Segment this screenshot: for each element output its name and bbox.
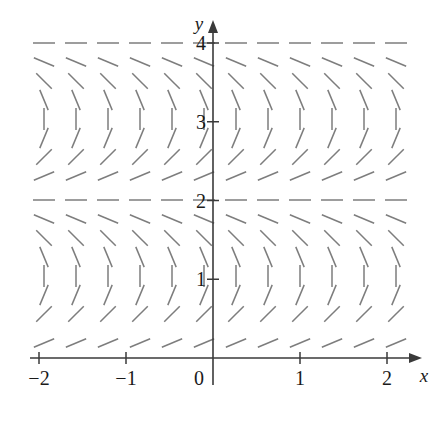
- y-tick-label: 2: [196, 190, 206, 212]
- slope-segment: [104, 247, 112, 267]
- slope-segment: [290, 215, 310, 223]
- slope-segment: [34, 339, 54, 347]
- slope-segment: [68, 149, 84, 165]
- slope-segment: [226, 172, 246, 180]
- slope-segment: [36, 149, 52, 165]
- slope-segment: [322, 58, 342, 66]
- slope-segment: [260, 230, 276, 246]
- slope-segment: [388, 306, 404, 322]
- slope-segment: [354, 215, 374, 223]
- slope-segment: [40, 90, 48, 110]
- slope-segment: [232, 90, 240, 110]
- slope-segment: [136, 285, 144, 305]
- slope-segment: [34, 172, 54, 180]
- slope-segment: [168, 285, 176, 305]
- slope-segment: [72, 247, 80, 267]
- slope-segment: [264, 128, 272, 148]
- slope-segment: [322, 215, 342, 223]
- slope-segment: [228, 149, 244, 165]
- slope-segment: [104, 90, 112, 110]
- axes-group: [30, 20, 422, 385]
- y-tick-label: 4: [196, 32, 206, 54]
- slope-segment: [200, 247, 208, 267]
- slope-segment: [136, 247, 144, 267]
- slope-segment: [388, 230, 404, 246]
- slope-segment: [328, 285, 336, 305]
- slope-segment: [136, 90, 144, 110]
- slope-segment: [264, 285, 272, 305]
- slope-segment: [232, 285, 240, 305]
- y-axis-arrowhead: [208, 20, 218, 33]
- slope-segment: [100, 306, 116, 322]
- slope-segment: [258, 339, 278, 347]
- slope-segment: [228, 73, 244, 89]
- slope-segment: [194, 58, 214, 66]
- slope-segment: [130, 339, 150, 347]
- slope-segment: [360, 247, 368, 267]
- slope-segments-group: [33, 43, 407, 347]
- slope-segment: [162, 215, 182, 223]
- slope-segment: [66, 172, 86, 180]
- slope-segment: [354, 172, 374, 180]
- slope-segment: [328, 90, 336, 110]
- slope-segment: [360, 90, 368, 110]
- slope-segment: [194, 339, 214, 347]
- slope-segment: [324, 306, 340, 322]
- slope-segment: [162, 339, 182, 347]
- slope-segment: [260, 149, 276, 165]
- slope-segment: [324, 73, 340, 89]
- slope-segment: [228, 306, 244, 322]
- slope-segment: [388, 149, 404, 165]
- slope-segment: [66, 215, 86, 223]
- slope-segment: [68, 73, 84, 89]
- slope-segment: [34, 215, 54, 223]
- slope-segment: [292, 230, 308, 246]
- x-tick-label: 2: [382, 367, 392, 389]
- slope-segment: [196, 73, 212, 89]
- slope-segment: [40, 247, 48, 267]
- slope-segment: [258, 215, 278, 223]
- y-tick-label: 3: [196, 111, 206, 133]
- slope-segment: [292, 149, 308, 165]
- slope-segment: [386, 339, 406, 347]
- slope-segment: [386, 215, 406, 223]
- slope-segment: [66, 339, 86, 347]
- slope-segment: [264, 247, 272, 267]
- slope-segment: [36, 306, 52, 322]
- slope-segment: [162, 58, 182, 66]
- slope-segment: [264, 90, 272, 110]
- slope-segment: [322, 339, 342, 347]
- slope-segment: [392, 128, 400, 148]
- slope-segment: [296, 128, 304, 148]
- slope-segment: [162, 172, 182, 180]
- slope-segment: [168, 247, 176, 267]
- slope-segment: [98, 58, 118, 66]
- slope-segment: [322, 172, 342, 180]
- slope-segment: [168, 128, 176, 148]
- slope-segment: [164, 230, 180, 246]
- slope-segment: [290, 172, 310, 180]
- slope-segment: [386, 58, 406, 66]
- slope-segment: [130, 58, 150, 66]
- slope-segment: [194, 172, 214, 180]
- slope-segment: [34, 58, 54, 66]
- slope-segment: [328, 128, 336, 148]
- slope-segment: [296, 247, 304, 267]
- slope-segment: [392, 90, 400, 110]
- slope-field-figure: −2−10121234xy: [0, 0, 445, 422]
- axis-labels-group: −2−10121234xy: [28, 13, 428, 389]
- slope-segment: [196, 149, 212, 165]
- slope-segment: [388, 73, 404, 89]
- slope-segment: [196, 230, 212, 246]
- slope-segment: [296, 285, 304, 305]
- slope-segment: [328, 247, 336, 267]
- slope-segment: [200, 90, 208, 110]
- slope-segment: [72, 285, 80, 305]
- slope-segment: [98, 172, 118, 180]
- slope-segment: [354, 339, 374, 347]
- slope-segment: [136, 128, 144, 148]
- slope-segment: [226, 339, 246, 347]
- slope-segment: [36, 230, 52, 246]
- slope-segment: [392, 285, 400, 305]
- slope-segment: [258, 58, 278, 66]
